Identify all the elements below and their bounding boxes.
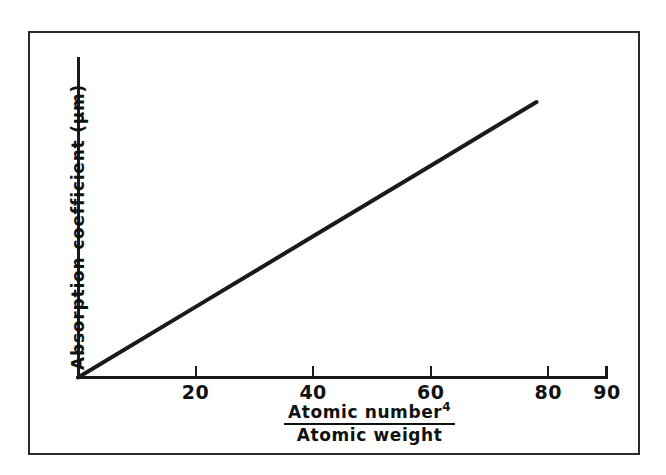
x-axis-line (77, 376, 608, 379)
x-tick-60 (430, 366, 432, 377)
x-tick-20 (195, 366, 197, 377)
x-axis-end-cap (605, 366, 608, 379)
x-tick-label-20: 20 (173, 381, 219, 403)
x-tick-label-80: 80 (525, 381, 571, 403)
x-tick-40 (312, 366, 314, 377)
y-axis-title: Absorption coefficient (μm) (68, 40, 88, 370)
x-tick-80 (547, 366, 549, 377)
x-axis-title: Atomic number4 Atomic weight (284, 404, 455, 445)
x-axis-title-numerator-text: Atomic number (288, 402, 442, 422)
figure-container: 2040608090 Absorption coefficient (μm) A… (0, 0, 666, 475)
x-axis-title-denominator: Atomic weight (284, 425, 455, 445)
x-tick-label-90: 90 (584, 381, 630, 403)
x-axis-title-numerator: Atomic number4 (284, 404, 455, 425)
x-axis-title-exponent: 4 (442, 400, 451, 414)
x-tick-label-40: 40 (290, 381, 336, 403)
